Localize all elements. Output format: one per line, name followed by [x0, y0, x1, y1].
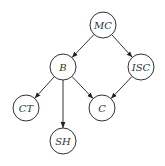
- edge-mc-to-isc: [112, 35, 133, 58]
- directed-graph: MCBISCCTCSH: [0, 0, 165, 166]
- node-mc: MC: [90, 12, 116, 38]
- node-label: B: [58, 62, 66, 73]
- edge-isc-to-c: [111, 76, 132, 98]
- node-c: C: [89, 95, 115, 121]
- node-sh: SH: [50, 128, 76, 154]
- node-isc: ISC: [128, 54, 154, 80]
- node-label: SH: [55, 136, 71, 147]
- node-label: C: [98, 103, 106, 114]
- edge-b-to-ct: [35, 77, 55, 99]
- node-label: CT: [19, 103, 35, 114]
- edge-mc-to-b: [72, 34, 94, 57]
- edge-b-to-c: [72, 76, 93, 98]
- node-label: ISC: [131, 62, 151, 73]
- node-label: MC: [93, 20, 112, 31]
- node-ct: CT: [13, 95, 39, 121]
- node-b: B: [50, 54, 76, 80]
